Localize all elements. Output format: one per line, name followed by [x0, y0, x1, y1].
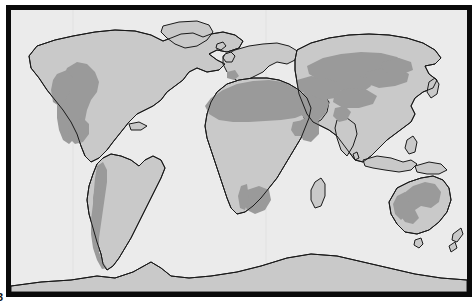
world-map: [11, 10, 467, 292]
figure-root: 3: [0, 0, 476, 305]
page-folio-number: 3: [0, 292, 3, 303]
map-frame: [6, 5, 472, 297]
